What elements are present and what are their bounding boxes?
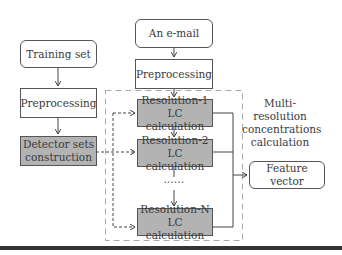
- email-label: An e-mail: [149, 27, 199, 40]
- detector-sets-label-1: Detector sets: [23, 138, 94, 151]
- email-node: An e-mail: [135, 19, 213, 48]
- resolution-1-label-1: Resolution-1: [142, 94, 209, 107]
- resolution-n-label-1: Resolution-N: [140, 203, 209, 216]
- detector-sets-node: Detector sets construction: [20, 136, 97, 166]
- group-label-3: calculation: [242, 136, 318, 149]
- resolution-1-label-2: LC calculation: [138, 107, 212, 133]
- training-set-label: Training set: [26, 48, 90, 61]
- preprocessing-right-node: Preprocessing: [135, 59, 213, 89]
- preprocessing-left-label: Preprocessing: [20, 97, 96, 110]
- detector-sets-label-2: construction: [25, 151, 92, 164]
- resolution-2-label-1: Resolution-2: [142, 134, 209, 147]
- bottom-rule: [0, 246, 342, 250]
- resolution-2-node: Resolution-2 LC calculation: [137, 139, 213, 167]
- preprocessing-left-node: Preprocessing: [20, 88, 97, 118]
- resolution-2-label-2: LC calculation: [138, 147, 212, 173]
- training-set-node: Training set: [20, 40, 97, 68]
- feature-vector-label-2: vector: [270, 175, 304, 188]
- resolution-n-label-2: LC calculation: [138, 216, 212, 242]
- group-label-1: Multi-resolution: [242, 97, 318, 123]
- preprocessing-right-label: Preprocessing: [136, 68, 212, 81]
- resolution-1-node: Resolution-1 LC calculation: [137, 99, 213, 127]
- resolution-n-node: Resolution-N LC calculation: [137, 208, 213, 236]
- feature-vector-label-1: Feature: [266, 162, 307, 175]
- feature-vector-node: Feature vector: [249, 161, 325, 189]
- group-label: Multi-resolution concentrations calculat…: [242, 97, 318, 149]
- ellipsis-dots: ••••••: [150, 176, 198, 189]
- group-label-2: concentrations: [242, 123, 318, 136]
